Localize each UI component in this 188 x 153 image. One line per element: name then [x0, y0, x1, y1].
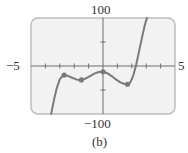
- x-max-label: 5: [178, 59, 185, 72]
- x-min-label: −5: [6, 59, 20, 72]
- turning-point-marker: [79, 77, 84, 82]
- y-min-label: −100: [84, 117, 111, 130]
- turning-point-marker: [125, 82, 130, 87]
- turning-point-marker: [100, 69, 105, 74]
- turning-point-marker: [62, 73, 67, 78]
- figure-caption: (b): [92, 135, 107, 148]
- y-max-label: 100: [91, 3, 111, 16]
